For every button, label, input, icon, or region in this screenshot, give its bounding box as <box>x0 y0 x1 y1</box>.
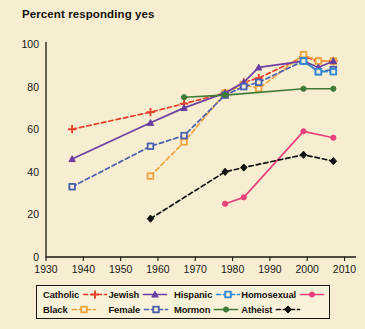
data-point <box>316 69 322 75</box>
series-line <box>72 61 333 187</box>
data-point <box>301 52 307 58</box>
data-point <box>223 93 228 98</box>
plot-area: 020406080100 193019401950196019701980199… <box>0 0 365 282</box>
legend-swatch-black <box>71 304 97 315</box>
data-point <box>153 307 159 313</box>
legend-label: Homosexual <box>241 289 296 300</box>
legend-label: Atheist <box>241 304 272 315</box>
legend-item-female[interactable]: Female <box>108 304 173 315</box>
series-jewish <box>69 58 337 162</box>
y-tick-label: 0 <box>33 251 39 263</box>
legend-label: Mormon <box>174 304 210 315</box>
data-point <box>223 201 228 206</box>
data-point <box>309 292 314 297</box>
legend-swatch-homosexual <box>299 289 325 300</box>
legend-label: Female <box>108 304 140 315</box>
data-point <box>181 139 187 145</box>
data-point <box>256 86 262 92</box>
data-series-layer <box>69 52 337 222</box>
x-tick-label: 2010 <box>333 263 357 275</box>
data-point <box>92 291 99 298</box>
x-tick-label: 2000 <box>296 263 320 275</box>
data-point <box>222 168 228 175</box>
data-point <box>69 126 76 133</box>
data-point <box>300 151 306 158</box>
x-tick-label: 1990 <box>258 263 282 275</box>
data-point <box>241 164 247 171</box>
series-line <box>72 61 333 159</box>
legend-swatch-mormon <box>213 304 239 315</box>
data-point <box>148 173 154 179</box>
legend-swatch-hispanic <box>215 289 241 300</box>
legend-item-mormon[interactable]: Mormon <box>174 304 241 315</box>
y-tick-label: 40 <box>27 166 39 178</box>
data-point <box>330 158 336 165</box>
line-chart-svg: 020406080100 193019401950196019701980199… <box>0 0 365 282</box>
legend-label: Black <box>43 304 68 315</box>
series-homosexual <box>223 129 336 207</box>
x-tick-label: 1950 <box>109 263 133 275</box>
y-tick-label: 80 <box>27 81 39 93</box>
legend-label: Catholic <box>43 289 79 300</box>
legend-item-homosexual[interactable]: Homosexual <box>241 289 325 300</box>
data-point <box>147 215 153 222</box>
data-point <box>241 195 246 200</box>
legend-label: Jewish <box>108 289 139 300</box>
legend-item-atheist[interactable]: Atheist <box>241 304 325 315</box>
data-point <box>285 306 291 313</box>
data-point <box>69 184 75 190</box>
x-tick-label: 1940 <box>72 263 96 275</box>
legend-swatch-atheist <box>275 304 301 315</box>
data-point <box>225 292 231 298</box>
legend-item-jewish[interactable]: Jewish <box>108 289 173 300</box>
data-point <box>241 84 247 90</box>
data-point <box>81 307 87 313</box>
data-point <box>301 58 307 64</box>
legend-item-hispanic[interactable]: Hispanic <box>174 289 241 300</box>
y-tick-label: 60 <box>27 123 39 135</box>
legend-label: Hispanic <box>174 289 212 300</box>
data-point <box>331 69 337 75</box>
series-black <box>148 52 336 179</box>
data-point <box>301 129 306 134</box>
legend-item-catholic[interactable]: Catholic <box>43 289 108 300</box>
x-tick-label: 1970 <box>184 263 208 275</box>
series-atheist <box>147 151 336 222</box>
chart-figure: Percent responding yes 020406080100 1930… <box>0 0 365 329</box>
series-line <box>150 155 333 219</box>
legend-swatch-catholic <box>82 289 108 300</box>
data-point <box>331 135 336 140</box>
data-point <box>256 80 262 86</box>
y-tick-label: 100 <box>21 38 39 50</box>
series-female <box>69 58 336 189</box>
y-tick-label: 20 <box>27 208 39 220</box>
data-point <box>331 86 336 91</box>
y-axis-tick-labels: 020406080100 <box>21 38 39 263</box>
data-point <box>181 133 187 139</box>
x-axis-tick-labels: 193019401950196019701980199020002010 <box>34 257 356 275</box>
legend: CatholicJewishHispanicHomosexualBlackFem… <box>36 285 330 319</box>
series-line <box>150 55 333 176</box>
x-tick-label: 1980 <box>221 263 245 275</box>
legend-item-black[interactable]: Black <box>43 304 108 315</box>
data-point <box>301 86 306 91</box>
data-point <box>224 307 229 312</box>
x-tick-label: 1960 <box>146 263 170 275</box>
legend-swatch-jewish <box>142 289 168 300</box>
data-point <box>316 58 322 64</box>
data-point <box>181 95 186 100</box>
legend-swatch-female <box>143 304 169 315</box>
data-point <box>148 143 154 149</box>
x-tick-label: 1930 <box>34 263 58 275</box>
data-point <box>147 109 154 116</box>
series-line <box>72 57 333 129</box>
